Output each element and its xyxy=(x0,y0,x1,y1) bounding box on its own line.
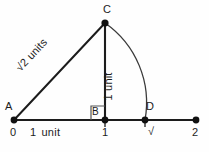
axis-tick-label-2: 2 xyxy=(192,127,198,138)
axis-tick-label-1: 1 xyxy=(102,127,108,138)
vertical-length-unit: unit xyxy=(102,72,114,91)
point-label-C: C xyxy=(103,4,111,15)
point-label-B: B xyxy=(92,107,99,117)
base-length-number: 1 xyxy=(30,126,36,138)
geometry-diagram-canvas: A B C D 0 1 2 √ 1unit √2 units 1 unit xyxy=(0,0,209,152)
base-length-unit: unit xyxy=(41,126,60,138)
length-label-base: 1unit xyxy=(30,127,60,138)
axis-tick-label-sqrt2: √ xyxy=(148,126,154,137)
radical-sign: √ xyxy=(148,126,154,137)
point-D-dot xyxy=(142,117,149,124)
point-2-dot xyxy=(193,117,200,124)
axis-tick-label-0: 0 xyxy=(10,127,16,138)
vertical-length-number: 1 xyxy=(102,94,114,100)
point-C-dot xyxy=(101,19,108,26)
point-label-D: D xyxy=(146,101,154,112)
length-label-vertical: 1 unit xyxy=(103,72,114,100)
point-label-A: A xyxy=(5,101,13,112)
point-A-dot xyxy=(11,117,18,124)
point-B-dot xyxy=(102,117,109,124)
